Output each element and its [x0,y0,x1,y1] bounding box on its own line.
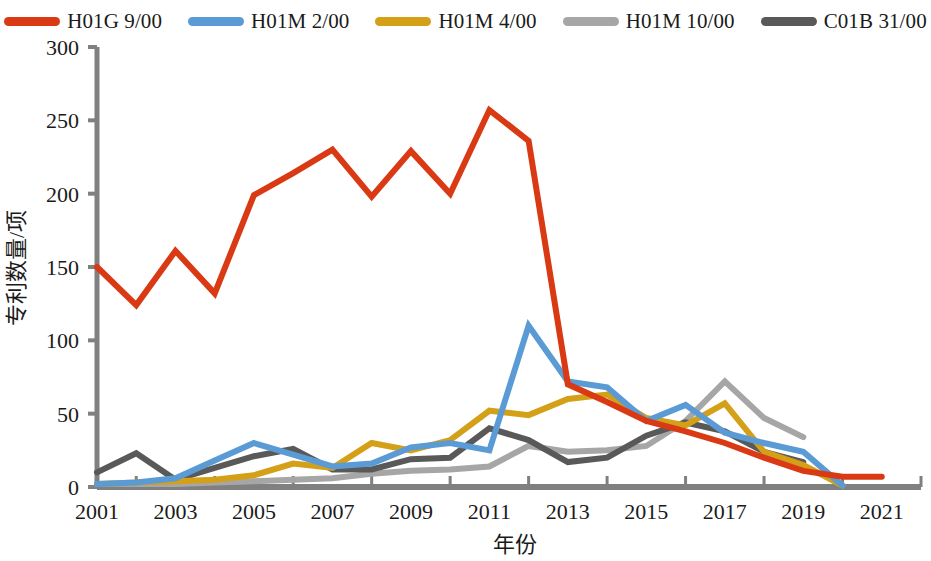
plot-area: 050100150200250300 200120032005200720092… [0,0,931,561]
x-tick-label: 2011 [468,499,511,524]
series-lines [97,110,882,485]
x-axis-title: 年份 [493,532,537,557]
x-tick-label: 2007 [310,499,354,524]
y-tick-label: 150 [46,255,79,280]
x-tick-label: 2013 [546,499,590,524]
x-tick-label: 2009 [389,499,433,524]
y-tick-label: 250 [46,108,79,133]
x-tick-label: 2021 [860,499,904,524]
y-tick-label: 0 [68,475,79,500]
y-tick-label: 300 [46,35,79,60]
x-tick-label: 2015 [624,499,668,524]
x-tick-label: 2003 [153,499,197,524]
chart-svg: 050100150200250300 200120032005200720092… [0,0,931,561]
series-line [97,326,843,486]
y-tick-label: 200 [46,182,79,207]
x-tick-label: 2005 [232,499,276,524]
patent-trend-chart: H01G 9/00H01M 2/00H01M 4/00H01M 10/00C01… [0,0,931,561]
y-axis-title: 专利数量/项 [4,210,29,326]
x-tick-label: 2019 [781,499,825,524]
y-tick-label: 50 [57,402,79,427]
x-tick-label: 2017 [703,499,747,524]
x-tick-label: 2001 [75,499,119,524]
y-tick-label: 100 [46,328,79,353]
y-axis: 050100150200250300 [46,35,97,500]
series-line [97,110,882,477]
